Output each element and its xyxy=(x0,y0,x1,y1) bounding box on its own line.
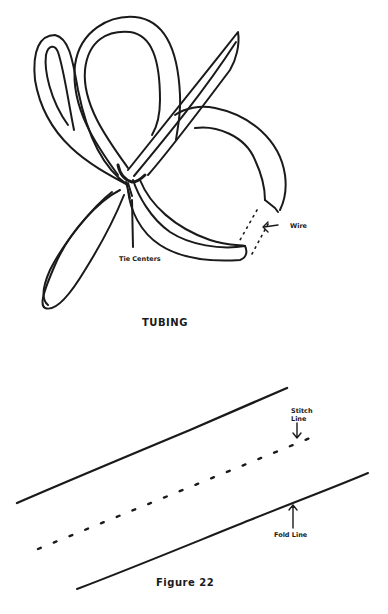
stitch-arrow xyxy=(293,423,301,438)
right-ring xyxy=(128,107,286,261)
illustration xyxy=(0,0,388,614)
tie-centers-label: Tie Centers xyxy=(119,256,161,263)
lower-left-loop xyxy=(42,190,124,309)
wire-label: Wire xyxy=(290,223,307,230)
tubing-title: TUBING xyxy=(142,318,188,328)
diagonal-strip xyxy=(128,32,239,176)
figure-caption: Figure 22 xyxy=(156,578,214,588)
top-edge-line xyxy=(17,388,287,503)
fold-line xyxy=(77,473,368,589)
tie-centers-leader xyxy=(132,200,133,247)
stitch-label-line2: Line xyxy=(291,416,306,423)
wire-dots xyxy=(240,210,268,254)
top-loop xyxy=(74,17,180,175)
fold-line-label: Fold Line xyxy=(274,532,307,539)
fold-arrow xyxy=(289,505,297,528)
wire-leader xyxy=(264,225,278,227)
stitch-label: Stitch xyxy=(291,408,313,415)
